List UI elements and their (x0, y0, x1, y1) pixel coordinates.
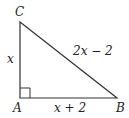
side-label-ab: x + 2 (54, 101, 86, 115)
side-label-ac: x (7, 52, 14, 66)
triangle-diagram: C A B x x + 2 2x − 2 (0, 0, 129, 118)
vertex-label-a: A (12, 101, 22, 115)
vertex-label-c: C (15, 5, 24, 19)
triangle-abc (20, 22, 117, 98)
vertex-label-b: B (115, 101, 125, 115)
side-label-bc: 2x − 2 (72, 44, 113, 58)
right-angle-marker (20, 88, 30, 98)
